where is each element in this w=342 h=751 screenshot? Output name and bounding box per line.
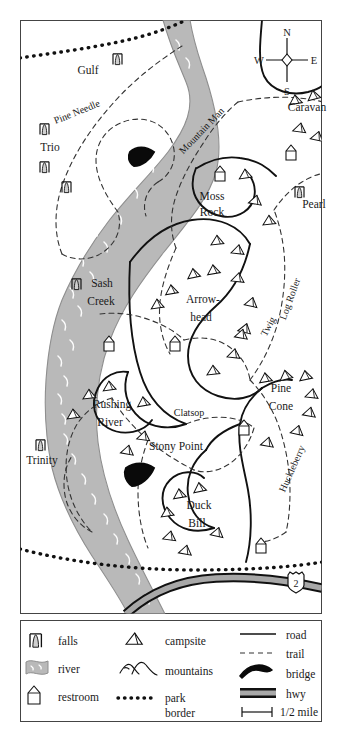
place-label-gulf: Gulf (77, 64, 98, 76)
highway-shield-number: 2 (294, 578, 299, 589)
river-icon (26, 661, 48, 675)
legend-label-border: border (165, 707, 195, 719)
legend-label-hwy: hwy (286, 688, 306, 701)
place-label-cone: Cone (269, 400, 293, 412)
hwy-icon (240, 688, 276, 698)
place-label-pearl: Pearl (302, 198, 326, 210)
compass-east-label: E (311, 55, 317, 66)
compass-west-label: W (254, 55, 264, 66)
legend-label-bridge: bridge (286, 668, 315, 681)
place-label-pine: Pine (271, 382, 291, 394)
place-label-trio: Trio (40, 141, 60, 153)
legend-label-river: river (58, 663, 80, 675)
park-map: 2 N E S W Gulf Trio Caravan Pearl Moss R… (0, 0, 342, 751)
place-label-moss: Moss (200, 190, 225, 202)
legend-label-mountains: mountains (165, 665, 213, 677)
legend-label-trail: trail (286, 648, 305, 660)
park-map-screenshot: 2 N E S W Gulf Trio Caravan Pearl Moss R… (0, 0, 342, 751)
place-label-river: River (97, 416, 123, 428)
compass-north-label: N (283, 27, 291, 38)
legend-label-restroom: restroom (58, 691, 99, 703)
legend-label-road: road (286, 629, 307, 641)
place-label-creek: Creek (87, 295, 115, 307)
place-label-sash: Sash (91, 277, 113, 289)
legend-label-park: park (165, 692, 186, 705)
highway-shield: 2 (288, 572, 304, 593)
legend-label-falls: falls (58, 635, 78, 647)
place-label-head: head (190, 311, 212, 323)
place-label-rushing: Rushing (93, 398, 132, 411)
place-label-arrow: Arrow- (186, 293, 220, 305)
place-label-caravan: Caravan (288, 101, 327, 113)
place-label-rock: Rock (200, 206, 225, 218)
legend-label-campsite: campsite (165, 635, 206, 648)
compass-south-label: S (284, 86, 290, 97)
place-label-duck: Duck (187, 499, 212, 511)
trail-label-clatsop: Clatsop (174, 407, 205, 418)
trail-label-stony-point: Stony Point (149, 440, 204, 453)
place-label-bill: Bill (188, 517, 205, 529)
place-label-trinity: Trinity (26, 454, 58, 467)
legend-label-scale: 1/2 mile (280, 706, 318, 718)
